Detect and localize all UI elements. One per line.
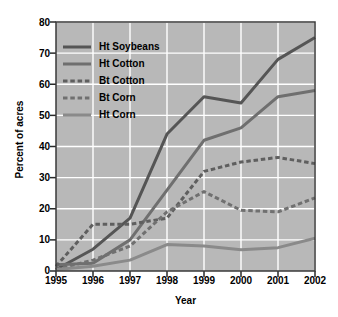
- x-tick-label: 1998: [147, 275, 187, 286]
- y-tick-label: 30: [24, 173, 50, 183]
- legend-item-label: Bt Corn: [99, 92, 136, 103]
- x-tick-label: 2002: [295, 275, 335, 286]
- legend-item-label: Bt Cotton: [99, 75, 145, 86]
- legend-item: Ht Soybeans: [62, 38, 160, 55]
- chart-legend: Ht SoybeansHt CottonBt CottonBt CornHt C…: [62, 38, 160, 123]
- legend-item-label: Ht Cotton: [99, 58, 145, 69]
- x-tick-label: 1996: [73, 275, 113, 286]
- legend-item-label: Ht Corn: [99, 109, 136, 120]
- legend-swatch-solid-line: [62, 41, 92, 53]
- line-chart: Percent of acres Year 80 70 60 50 40 30 …: [0, 0, 338, 317]
- x-tick-label: 1995: [36, 275, 76, 286]
- legend-swatch-dashed-line: [62, 75, 92, 87]
- x-tick-label: 1999: [184, 275, 224, 286]
- y-tick-label: 80: [24, 18, 50, 28]
- plot-area: [0, 0, 338, 317]
- y-tick-label: 20: [24, 204, 50, 214]
- y-tick-label: 10: [24, 235, 50, 245]
- y-tick-label: 50: [24, 111, 50, 121]
- y-tick-label: 70: [24, 49, 50, 59]
- legend-item: Bt Cotton: [62, 72, 160, 89]
- legend-swatch-solid-line: [62, 58, 92, 70]
- legend-swatch-solid-line: [62, 109, 92, 121]
- legend-swatch-dashed-line: [62, 92, 92, 104]
- legend-item-label: Ht Soybeans: [99, 41, 160, 52]
- x-tick-label: 2001: [258, 275, 298, 286]
- legend-item: Bt Corn: [62, 89, 160, 106]
- x-tick-label: 1997: [110, 275, 150, 286]
- y-tick-label: 40: [24, 142, 50, 152]
- x-axis-title: Year: [56, 295, 315, 306]
- x-tick-label: 2000: [221, 275, 261, 286]
- legend-item: Ht Cotton: [62, 55, 160, 72]
- y-axis-tick-labels: 80 70 60 50 40 30 20 10 0: [22, 0, 50, 317]
- legend-item: Ht Corn: [62, 106, 160, 123]
- y-tick-label: 60: [24, 80, 50, 90]
